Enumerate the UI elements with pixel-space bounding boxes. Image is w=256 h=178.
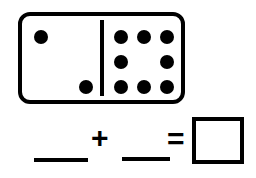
domino-divider-line <box>100 20 104 96</box>
domino-pip-right-2 <box>137 30 151 44</box>
domino-pip-right-1 <box>114 30 128 44</box>
first-addend-blank[interactable] <box>34 158 88 162</box>
domino-addition-worksheet: + = <box>0 0 256 178</box>
equals-sign: = <box>167 124 185 154</box>
answer-box[interactable] <box>192 117 244 164</box>
domino-pip-left-1 <box>34 30 48 44</box>
domino-pip-right-6 <box>114 80 128 94</box>
domino-pip-right-5 <box>160 55 174 69</box>
domino-tile <box>18 12 185 104</box>
domino-pip-right-7 <box>137 80 151 94</box>
second-addend-blank[interactable] <box>122 157 170 161</box>
domino-pip-right-8 <box>160 80 174 94</box>
domino-pip-right-3 <box>160 30 174 44</box>
domino-pip-right-4 <box>114 55 128 69</box>
domino-pip-left-2 <box>79 80 93 94</box>
plus-sign: + <box>91 123 109 153</box>
